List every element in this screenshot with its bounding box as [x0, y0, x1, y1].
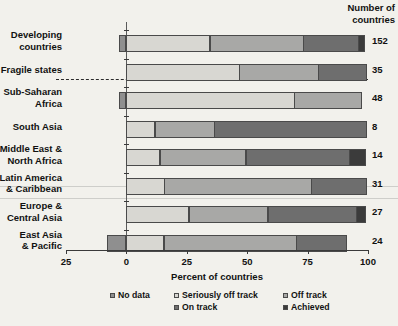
row-axis-tick — [124, 59, 129, 60]
stacked-bar[interactable] — [107, 235, 347, 252]
category-label-line2: countries — [0, 41, 62, 53]
bar-segment-seriously-off-track[interactable] — [126, 121, 155, 138]
stacked-bar[interactable] — [126, 64, 366, 81]
category-label-line1: East Asia — [0, 229, 62, 241]
category-label-line1: Latin America — [0, 172, 62, 184]
legend-label-off-track: Off track — [291, 290, 327, 300]
country-count-value: 24 — [372, 235, 396, 247]
row-axis-tick — [124, 201, 129, 202]
legend-item-off-track[interactable]: Off track — [283, 290, 327, 300]
country-count-value: 27 — [372, 206, 396, 218]
bar-segment-off-track[interactable] — [160, 149, 247, 166]
category-label: Middle East &North Africa — [0, 143, 62, 166]
bar-segment-seriously-off-track[interactable] — [126, 35, 211, 52]
country-count-value: 8 — [372, 121, 396, 133]
legend-item-achieved[interactable]: Achieved — [283, 302, 330, 312]
row-axis-tick — [124, 230, 129, 231]
category-label-line1: Developing — [0, 29, 62, 41]
legend-swatch-off-track — [283, 293, 288, 298]
bar-row — [66, 230, 368, 259]
x-axis-tick — [187, 250, 188, 254]
x-axis-tick — [368, 250, 369, 254]
x-axis-tick — [126, 250, 127, 254]
category-label: Sub-SaharanAfrica — [0, 86, 62, 109]
bar-segment-off-track[interactable] — [155, 121, 215, 138]
x-axis-tick-label: 50 — [227, 256, 267, 267]
stacked-bar[interactable] — [126, 149, 366, 166]
category-label-line2: & Pacific — [0, 240, 62, 252]
x-axis-tick-label: 0 — [106, 256, 146, 267]
legend-label-on-track: On track — [182, 302, 217, 312]
bar-segment-seriously-off-track[interactable] — [126, 92, 295, 109]
x-axis-tick-label: 25 — [46, 256, 86, 267]
legend-swatch-on-track — [174, 305, 179, 310]
bar-segment-off-track[interactable] — [189, 206, 269, 223]
legend-label-seriously-off-track: Seriously off track — [182, 290, 258, 300]
bar-segment-achieved[interactable] — [356, 206, 366, 223]
bar-segment-seriously-off-track[interactable] — [126, 149, 160, 166]
bar-row — [66, 116, 368, 145]
bar-row — [66, 201, 368, 230]
category-label-line1: Europe & — [0, 200, 62, 212]
category-label-line1: South Asia — [0, 121, 62, 133]
legend-item-seriously-off-track[interactable]: Seriously off track — [174, 290, 258, 300]
bar-segment-off-track[interactable] — [294, 92, 362, 109]
category-label-line1: Middle East & — [0, 143, 62, 155]
country-count-value: 48 — [372, 92, 396, 104]
bar-segment-on-track[interactable] — [296, 235, 347, 252]
x-axis-tick — [308, 250, 309, 254]
bar-segment-seriously-off-track[interactable] — [126, 64, 240, 81]
bar-segment-off-track[interactable] — [239, 64, 319, 81]
legend-label-achieved: Achieved — [291, 302, 330, 312]
x-axis-tick — [247, 250, 248, 254]
category-label-line1: Fragile states — [0, 64, 62, 76]
legend-item-on-track[interactable]: On track — [174, 302, 217, 312]
legend-label-no-data: No data — [118, 290, 150, 300]
legend-swatch-seriously-off-track — [174, 293, 179, 298]
bar-segment-on-track[interactable] — [303, 35, 359, 52]
stacked-bar[interactable] — [126, 121, 366, 138]
category-label: East Asia& Pacific — [0, 229, 62, 252]
bar-segment-off-track[interactable] — [164, 178, 311, 195]
legend-item-no-data[interactable]: No data — [110, 290, 150, 300]
category-label-line1: Sub-Saharan — [0, 86, 62, 98]
stacked-bar[interactable] — [119, 92, 362, 109]
stacked-bar[interactable] — [119, 35, 365, 52]
category-label-line2: Africa — [0, 98, 62, 110]
bar-segment-on-track[interactable] — [318, 64, 366, 81]
category-label: Latin America& Caribbean — [0, 172, 62, 195]
category-label-line2: Central Asia — [0, 212, 62, 224]
bar-segment-achieved[interactable] — [358, 35, 365, 52]
right-column-header-line1: Number of — [337, 2, 395, 14]
country-count-value: 35 — [372, 64, 396, 76]
category-label: South Asia — [0, 121, 62, 133]
bar-segment-on-track[interactable] — [214, 121, 366, 138]
legend-row-2: On track Achieved — [110, 302, 380, 314]
country-count-value: 31 — [372, 178, 396, 190]
x-axis-tick-label: 25 — [167, 256, 207, 267]
bar-row — [66, 30, 368, 59]
bar-segment-no-data[interactable] — [107, 235, 126, 252]
bar-segment-achieved[interactable] — [349, 149, 366, 166]
bar-segment-on-track[interactable] — [246, 149, 350, 166]
legend-swatch-achieved — [283, 305, 288, 310]
row-axis-tick — [124, 87, 129, 88]
category-label: Fragile states — [0, 64, 62, 76]
bar-row — [66, 59, 368, 88]
x-axis-tick-label: 75 — [288, 256, 328, 267]
x-axis-line — [66, 250, 368, 251]
bar-segment-off-track[interactable] — [210, 35, 304, 52]
bar-segment-seriously-off-track[interactable] — [126, 178, 165, 195]
bar-segment-off-track[interactable] — [164, 235, 297, 252]
row-axis-tick — [124, 116, 129, 117]
stacked-bar[interactable] — [126, 178, 366, 195]
x-axis-tick — [66, 250, 67, 254]
bar-segment-seriously-off-track[interactable] — [126, 235, 165, 252]
stacked-bar[interactable] — [126, 206, 366, 223]
country-count-value: 152 — [372, 35, 396, 47]
bar-segment-on-track[interactable] — [268, 206, 357, 223]
bar-segment-seriously-off-track[interactable] — [126, 206, 189, 223]
category-label: Developingcountries — [0, 29, 62, 52]
chart-container: Number of countries DevelopingcountriesF… — [0, 0, 398, 326]
bar-segment-on-track[interactable] — [311, 178, 367, 195]
